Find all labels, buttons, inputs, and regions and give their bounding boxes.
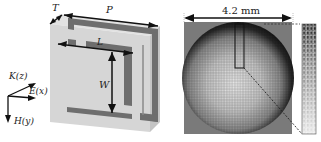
outer-ring-left-stub <box>68 18 74 30</box>
lens-circle <box>182 22 294 134</box>
label-p: P <box>106 5 113 15</box>
label-w: W <box>99 80 109 90</box>
connector-diagonal <box>244 68 302 134</box>
scale-label: 4.2 mm <box>222 6 260 16</box>
inner-ring-right <box>124 48 132 106</box>
label-h-axis: H(y) <box>14 117 34 126</box>
label-k-axis: K(z) <box>9 72 28 81</box>
label-e-axis: E(x) <box>29 87 48 96</box>
lens-background <box>184 22 292 134</box>
label-t: T <box>52 3 59 13</box>
label-l: L <box>97 38 103 47</box>
highlight-column <box>235 24 244 68</box>
zoomed-strip <box>302 24 316 134</box>
outer-ring-right <box>152 32 158 122</box>
